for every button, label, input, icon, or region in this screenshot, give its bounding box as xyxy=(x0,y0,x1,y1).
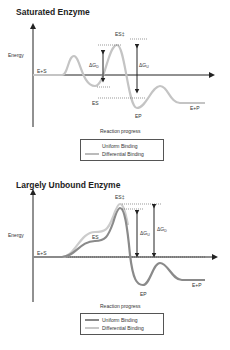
legend-item-uniform: Uniform Binding xyxy=(85,142,159,150)
legend-swatch xyxy=(85,327,99,329)
x-axis-label: Reaction progress xyxy=(100,303,141,309)
legend-item-uniform: Uniform Binding xyxy=(85,316,159,324)
y-axis-label: Energy xyxy=(8,52,24,58)
label-delta-g-d: ΔGD xyxy=(89,62,99,69)
label-es: ES xyxy=(92,234,99,240)
label-e-plus-s: E+S xyxy=(37,68,47,74)
panel-largely-unbound-enzyme: Largely Unbound Enzyme Energy E+S ES ES‡… xyxy=(0,175,230,350)
legend-swatch xyxy=(85,319,99,321)
legend-swatch xyxy=(85,153,99,155)
label-es: ES xyxy=(92,100,99,106)
label-ep: EP xyxy=(135,113,142,119)
legend-swatch xyxy=(85,145,99,147)
label-e-plus-p: E+P xyxy=(192,282,202,288)
uniform-binding-curve xyxy=(33,208,205,285)
legend: Uniform Binding Differential Binding xyxy=(80,313,164,335)
legend-item-differential: Differential Binding xyxy=(85,150,159,158)
label-delta-g-d: ΔGD xyxy=(157,226,167,233)
panel-saturated-enzyme: Saturated Enzyme Energy E+S ES ES‡ ΔGD Δ… xyxy=(0,0,230,175)
y-axis-label: Energy xyxy=(8,232,24,238)
label-e-plus-s: E+S xyxy=(37,250,47,256)
legend-item-differential: Differential Binding xyxy=(85,324,159,332)
differential-binding-curve xyxy=(33,45,205,108)
label-ep: EP xyxy=(140,291,147,297)
label-e-plus-p: E+P xyxy=(190,105,200,111)
label-transition-state: ES‡ xyxy=(115,194,125,200)
label-delta-g-u: ΔGU xyxy=(139,62,149,69)
label-delta-g-u: ΔGU xyxy=(140,230,150,237)
differential-binding-curve xyxy=(33,204,128,257)
legend: Uniform Binding Differential Binding xyxy=(80,139,164,161)
label-transition-state: ES‡ xyxy=(115,31,125,37)
x-axis-label: Reaction progress xyxy=(100,128,141,134)
